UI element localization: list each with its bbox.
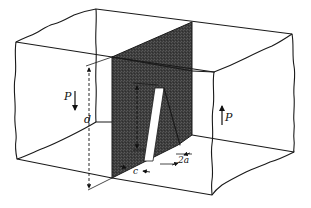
right-block-top-break-edge: [214, 34, 292, 72]
crack-offset-label: c: [133, 166, 138, 176]
notch-width-label: 2a: [177, 155, 189, 165]
front-top-edge-left: [16, 42, 112, 57]
chevron-notch-diagram: d P P 2a c: [0, 0, 311, 208]
load-label-left: P: [63, 90, 72, 103]
left-block-side-break-edge: [14, 42, 17, 159]
d-extension-top: [86, 57, 112, 66]
left-block-bottom-break-edge: [17, 122, 96, 159]
back-vertical-edge: [96, 9, 97, 122]
right-block-side-break-edge: [292, 34, 295, 152]
crack-offset-arrow-right: [143, 171, 150, 172]
bottom-front-edge-right: [112, 178, 212, 195]
bottom-front-edge-left: [17, 159, 112, 178]
depth-label: d: [84, 113, 91, 126]
d-extension-bottom: [88, 178, 112, 190]
left-block-top-break-edge: [16, 9, 96, 42]
right-block-bottom-break-edge: [212, 152, 294, 195]
bottom-back-edge: [192, 135, 294, 152]
top-back-edge: [96, 9, 292, 34]
right-front-vertical-edge: [211, 72, 214, 195]
load-label-right: P: [224, 111, 233, 124]
